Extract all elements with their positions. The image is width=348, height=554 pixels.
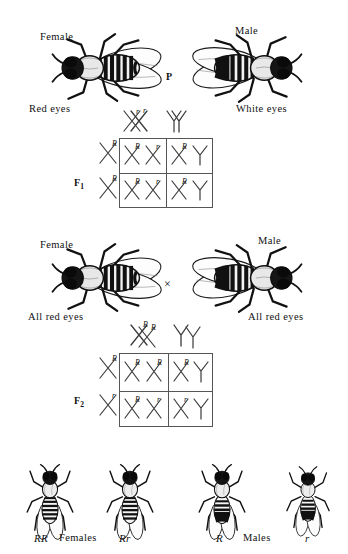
f2-cell-0-1-right bbox=[190, 358, 212, 384]
f2-side-gamete-0-allele: R bbox=[112, 355, 117, 363]
fly-parental-female bbox=[18, 28, 158, 104]
f1-cell-0-0-left-allele: R bbox=[135, 143, 140, 151]
f1-cell-1-0-right: r bbox=[142, 177, 164, 203]
f2-subscript: 2 bbox=[80, 400, 84, 409]
parental-male-phenotype-label: White eyes bbox=[236, 104, 287, 115]
f1-cell-1-1-right bbox=[189, 177, 211, 203]
genetics-pedigree-figure: P Female Red eyes Male White eyes r F1 bbox=[0, 0, 348, 554]
f2-side-gamete-0: R bbox=[97, 355, 119, 381]
f1-cell-0-0-left: R bbox=[121, 142, 143, 168]
f1-female-phenotype-label: All red eyes bbox=[28, 312, 84, 323]
f1-cell-0-1-left-allele: R bbox=[182, 143, 187, 151]
f1-cell-1-0-left-allele: R bbox=[135, 178, 140, 186]
f2-cell-0-0-right: R bbox=[143, 358, 165, 384]
generation-label-f2: F2 bbox=[74, 396, 84, 409]
f2-top-gamete-1 bbox=[182, 324, 204, 350]
f1-cell-1-0-left: R bbox=[121, 177, 143, 203]
punnett-square-f1: R r R R bbox=[119, 138, 213, 208]
parental-male-sex-label: Male bbox=[235, 26, 258, 37]
f1-cell-1-1-left: R bbox=[168, 177, 190, 203]
f2-cell-0-1-left: R bbox=[170, 358, 192, 384]
f2-cell-1-0-right: r bbox=[143, 395, 165, 421]
fly-f2-male-r bbox=[180, 452, 264, 536]
f1-side-gamete-0: R bbox=[97, 140, 119, 166]
f2-cell-1-0-left: R bbox=[121, 395, 143, 421]
fly-f2-male-r-white bbox=[268, 452, 348, 536]
f1-side-gamete-1-allele: R bbox=[112, 175, 117, 183]
f2-cell-1-1-left: r bbox=[170, 395, 192, 421]
f2-side-gamete-1-allele: r bbox=[112, 392, 115, 400]
f2-cell-0-0-left: R bbox=[121, 358, 143, 384]
f2-top-gamete-0-allele: R bbox=[151, 324, 156, 332]
punnett-f2-hline bbox=[120, 391, 212, 392]
parental-female-sex-label: Female bbox=[40, 32, 73, 43]
fly-parental-male bbox=[196, 28, 336, 104]
f2-cell-0-0-left-allele: R bbox=[135, 359, 140, 367]
f2-genotype-label-1: Rr bbox=[119, 533, 130, 544]
f2-cell-0-1-left-allele: R bbox=[184, 359, 189, 367]
f2-side-gamete-1: r bbox=[97, 392, 119, 418]
f2-cell-1-0-left-allele: R bbox=[135, 396, 140, 404]
f2-cell-1-1-left-allele: r bbox=[184, 396, 187, 404]
generation-label-p: P bbox=[166, 72, 172, 82]
f2-genotype-label-3: r bbox=[305, 533, 309, 544]
f2-top-gamete-0: R bbox=[136, 324, 158, 350]
f1-cell-0-1-left: R bbox=[168, 142, 190, 168]
f1-top-gamete-1 bbox=[163, 108, 185, 134]
fly-f1-male bbox=[196, 238, 336, 314]
f1-male-sex-label: Male bbox=[258, 236, 281, 247]
f2-cell-1-1-right bbox=[190, 395, 212, 421]
f1-side-gamete-0-allele: R bbox=[112, 140, 117, 148]
punnett-f1-hline bbox=[120, 173, 212, 174]
f2-genotype-label-2: R bbox=[216, 533, 223, 544]
f1-top-gamete-0: r bbox=[121, 108, 143, 134]
parental-female-phenotype-label: Red eyes bbox=[29, 104, 70, 115]
fly-f1-female bbox=[18, 238, 158, 314]
f1-cell-0-0-right-allele: r bbox=[156, 143, 159, 151]
f2-cell-1-0-right-allele: r bbox=[157, 396, 160, 404]
f1-side-gamete-1: R bbox=[97, 175, 119, 201]
f1-cell-0-1-right bbox=[189, 142, 211, 168]
f1-subscript: 1 bbox=[80, 182, 84, 191]
f2-cell-0-0-right-allele: R bbox=[157, 359, 162, 367]
generation-label-f1: F1 bbox=[74, 178, 84, 191]
f1-cell-1-0-right-allele: r bbox=[156, 178, 159, 186]
f2-genotype-label-0: RR bbox=[34, 533, 48, 544]
cross-symbol-f1: × bbox=[164, 278, 171, 290]
punnett-square-f2: R R R R bbox=[119, 353, 213, 427]
f1-cell-0-0-right: r bbox=[142, 142, 164, 168]
f1-cell-1-1-left-allele: R bbox=[182, 178, 187, 186]
punnett-f2-vline bbox=[168, 354, 169, 426]
f1-top-gamete-0-allele: r bbox=[136, 108, 139, 116]
f1-female-sex-label: Female bbox=[40, 240, 73, 251]
f2-group-label-males: Males bbox=[243, 533, 271, 544]
f1-male-phenotype-label: All red eyes bbox=[248, 312, 304, 323]
fly-f2-female-rr-het bbox=[88, 452, 172, 536]
fly-f2-female-rr bbox=[8, 452, 92, 536]
gamete-p-x-allele: r bbox=[143, 107, 146, 115]
